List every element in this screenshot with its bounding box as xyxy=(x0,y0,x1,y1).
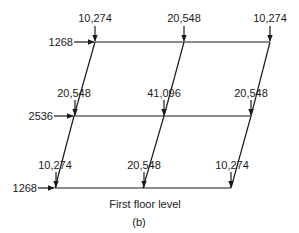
load-label-top-right: 10,274 xyxy=(253,12,287,24)
column-left-upper xyxy=(74,42,95,116)
load-label-top-left: 10,274 xyxy=(78,12,112,24)
load-label-top-mid: 20,548 xyxy=(167,12,201,24)
figure-sublabel: (b) xyxy=(132,216,145,228)
column-mid-upper xyxy=(164,42,184,116)
load-label-mid-right: 20,548 xyxy=(234,87,268,99)
load-label-bot-right: 10,274 xyxy=(215,159,249,171)
column-left-lower xyxy=(55,116,74,188)
load-label-bot-left: 10,274 xyxy=(38,159,72,171)
load-label-mid-left: 20,548 xyxy=(57,87,91,99)
caption-first-floor: First floor level xyxy=(109,198,181,210)
load-label-bot-mid: 20,548 xyxy=(127,159,161,171)
column-mid-lower xyxy=(143,116,164,188)
column-right-upper xyxy=(251,42,270,116)
lateral-label-middle: 2536 xyxy=(29,110,53,122)
column-right-lower xyxy=(231,116,251,188)
lateral-label-top: 1268 xyxy=(49,36,73,48)
lateral-label-bottom: 1268 xyxy=(13,182,37,194)
load-label-mid-mid: 41,096 xyxy=(147,87,181,99)
